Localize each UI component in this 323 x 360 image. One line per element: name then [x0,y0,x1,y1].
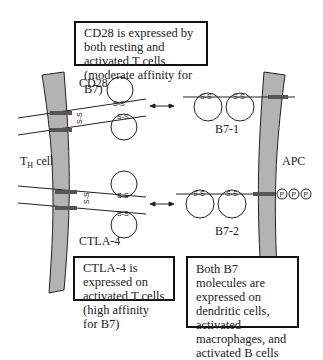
th-cell-label: TH cell [20,154,53,170]
svg-text:P: P [280,191,285,198]
phosphate-groups: P P P [277,189,311,199]
svg-text:P: P [304,191,309,198]
apc-label: APC [282,154,305,169]
t-cell-membrane [42,72,69,293]
binding-arrow-bottom [150,202,174,206]
ctla4-label: CTLA-4 [79,234,120,249]
svg-text:S-S: S-S [117,113,129,120]
svg-text:S-S: S-S [200,93,212,100]
binding-arrow-top [150,104,174,108]
svg-text:S-S: S-S [113,100,125,107]
b7-note-box: Both B7 molecules are expressed on dendr… [186,256,299,328]
svg-text:S-S: S-S [117,210,129,217]
svg-text:S-S: S-S [226,190,238,197]
b7-2-label: B7-2 [215,224,239,239]
svg-text:S-S: S-S [83,192,90,204]
b7-1-label: B7-1 [215,122,239,137]
svg-text:S-S: S-S [76,112,83,124]
ctla4-note-box: CTLA-4 is expressed on activated T cells… [73,256,175,301]
b7-note-text: Both B7 molecules are expressed on dendr… [196,262,286,360]
cd28-note-box: CD28 is expressed by both resting and ac… [74,21,208,66]
svg-text:S-S: S-S [117,192,129,199]
svg-text:S-S: S-S [233,93,245,100]
svg-text:P: P [292,191,297,198]
cd28-label: CD28 [79,76,108,91]
svg-text:S-S: S-S [193,190,205,197]
